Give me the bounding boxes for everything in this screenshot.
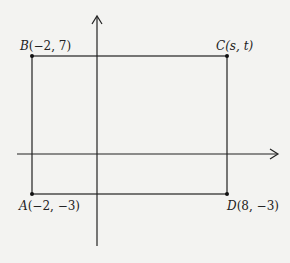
label-c: C(s, t)	[216, 39, 253, 53]
coordinate-diagram: B(−2, 7) C(s, t) A(−2, −3) D(8, −3)	[0, 0, 290, 263]
y-axis	[92, 16, 102, 246]
point-a	[30, 192, 34, 196]
rectangle-abcd	[32, 56, 227, 194]
point-d	[225, 192, 229, 196]
label-a: A(−2, −3)	[18, 199, 80, 213]
x-axis	[17, 149, 278, 159]
point-c	[225, 54, 229, 58]
label-b: B(−2, 7)	[19, 39, 71, 53]
point-b	[30, 54, 34, 58]
label-d: D(8, −3)	[226, 199, 279, 213]
